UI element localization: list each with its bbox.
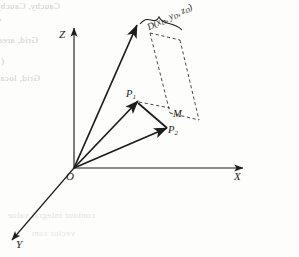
dashed-top-edge: [150, 33, 180, 40]
figure-page: Cauchy, Cauchy, Integral Y(Local) and Y-…: [0, 0, 299, 257]
point-label-M-main: M: [173, 108, 182, 119]
z-axis-label: Z: [59, 28, 65, 40]
y-axis-label: Y: [16, 238, 22, 250]
point-label-P1-sub: 1: [132, 93, 136, 101]
point-label-P1: P1: [126, 88, 136, 101]
vector-diagram-svg: [0, 0, 299, 257]
vector-O-to-P1: [74, 101, 138, 168]
origin-label: O: [66, 170, 74, 182]
point-label-M: M: [173, 108, 182, 119]
point-label-P2: P2: [168, 124, 178, 137]
dashed-outer-edge: [180, 40, 199, 120]
dashed-inner-edge: [150, 33, 170, 113]
point-label-P2-sub: 2: [174, 129, 178, 137]
vector-O-to-P2: [74, 128, 167, 168]
y-axis: [12, 168, 74, 240]
x-axis-label: X: [234, 170, 241, 182]
